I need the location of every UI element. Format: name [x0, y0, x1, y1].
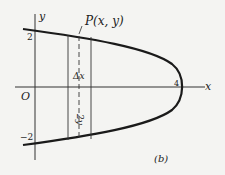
- origin-label: O: [21, 90, 30, 103]
- figure-label: (b): [154, 153, 168, 164]
- point-pointer: [79, 26, 82, 34]
- parabola-diagram: y x O 2 −2 4 P(x, y) Δx 2y (b): [0, 0, 225, 175]
- y-tick-2: 2: [27, 32, 33, 42]
- delta-x-label: Δx: [72, 71, 85, 81]
- x-axis-label: x: [205, 80, 212, 93]
- point-label: P(x, y): [84, 14, 124, 28]
- y-tick-neg2: −2: [20, 132, 33, 142]
- y-axis-label: y: [38, 10, 46, 23]
- x-tick-4: 4: [174, 79, 179, 88]
- two-y-label: 2y: [75, 113, 85, 126]
